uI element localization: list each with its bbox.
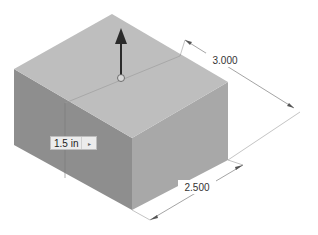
dimension-depth-value: 3.000 (212, 55, 237, 66)
play-arrow-icon[interactable]: ▸ (81, 137, 96, 149)
dimension-width-value: 2.500 (184, 182, 209, 193)
extrude-distance-value[interactable]: 1.5 in (51, 138, 81, 149)
extrude-distance-input[interactable]: 1.5 in ▸ (50, 136, 97, 150)
3d-viewport[interactable]: 3.000 2.500 1.5 in ▸ (0, 0, 318, 235)
model-canvas[interactable]: 3.000 2.500 (0, 0, 318, 235)
